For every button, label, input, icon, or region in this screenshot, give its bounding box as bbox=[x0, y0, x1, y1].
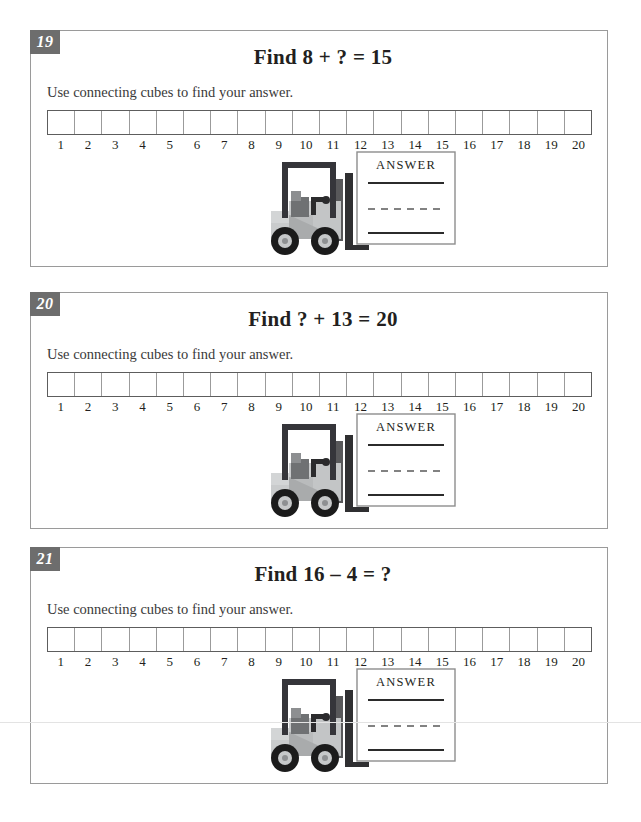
forklift-answer-illustration: ANSWER bbox=[253, 413, 473, 525]
answer-box-label: ANSWER bbox=[376, 420, 436, 434]
strip-cell[interactable] bbox=[483, 111, 510, 134]
answer-box-label: ANSWER bbox=[376, 158, 436, 172]
strip-cell[interactable] bbox=[538, 628, 565, 651]
strip-cell[interactable] bbox=[347, 111, 374, 134]
strip-cell[interactable] bbox=[184, 373, 211, 396]
strip-label: 5 bbox=[156, 654, 183, 670]
strip-label: 19 bbox=[538, 654, 565, 670]
strip-cell[interactable] bbox=[565, 111, 591, 134]
strip-cell[interactable] bbox=[102, 373, 129, 396]
strip-cell[interactable] bbox=[429, 373, 456, 396]
strip-cell[interactable] bbox=[429, 111, 456, 134]
strip-cell[interactable] bbox=[75, 373, 102, 396]
problem-title: Find 16 – 4 = ? bbox=[31, 562, 607, 587]
strip-cell[interactable] bbox=[75, 628, 102, 651]
strip-cell[interactable] bbox=[347, 373, 374, 396]
problem-number-badge: 21 bbox=[30, 547, 60, 571]
strip-cell[interactable] bbox=[483, 628, 510, 651]
strip-cell[interactable] bbox=[374, 373, 401, 396]
number-strip: 1234567891011121314151617181920 bbox=[47, 372, 592, 415]
forklift-answer-illustration: ANSWER bbox=[253, 668, 473, 780]
problem-number-badge: 20 bbox=[30, 292, 60, 316]
strip-cell[interactable] bbox=[211, 111, 238, 134]
number-strip-cells[interactable] bbox=[47, 372, 592, 397]
strip-cell[interactable] bbox=[320, 628, 347, 651]
number-strip-cells[interactable] bbox=[47, 110, 592, 135]
strip-cell[interactable] bbox=[565, 628, 591, 651]
strip-cell[interactable] bbox=[238, 628, 265, 651]
strip-cell[interactable] bbox=[456, 628, 483, 651]
strip-label: 2 bbox=[74, 654, 101, 670]
strip-label: 18 bbox=[510, 654, 537, 670]
strip-cell[interactable] bbox=[238, 373, 265, 396]
strip-label: 5 bbox=[156, 399, 183, 415]
strip-label: 5 bbox=[156, 137, 183, 153]
strip-label: 17 bbox=[483, 654, 510, 670]
strip-cell[interactable] bbox=[157, 111, 184, 134]
strip-cell[interactable] bbox=[293, 111, 320, 134]
strip-cell[interactable] bbox=[130, 111, 157, 134]
worksheet-page: 19 Find 8 + ? = 15 Use connecting cubes … bbox=[0, 0, 641, 822]
strip-label: 2 bbox=[74, 137, 101, 153]
strip-label: 1 bbox=[47, 137, 74, 153]
strip-label: 17 bbox=[483, 137, 510, 153]
strip-label: 18 bbox=[510, 399, 537, 415]
strip-label: 19 bbox=[538, 399, 565, 415]
strip-cell[interactable] bbox=[48, 628, 75, 651]
strip-cell[interactable] bbox=[184, 111, 211, 134]
strip-cell[interactable] bbox=[347, 628, 374, 651]
strip-cell[interactable] bbox=[48, 373, 75, 396]
strip-cell[interactable] bbox=[157, 373, 184, 396]
strip-cell[interactable] bbox=[374, 111, 401, 134]
problem-instruction: Use connecting cubes to find your answer… bbox=[47, 601, 607, 618]
strip-cell[interactable] bbox=[402, 373, 429, 396]
strip-cell[interactable] bbox=[374, 628, 401, 651]
strip-cell[interactable] bbox=[402, 111, 429, 134]
strip-cell[interactable] bbox=[510, 628, 537, 651]
strip-cell[interactable] bbox=[293, 628, 320, 651]
problem-title: Find ? + 13 = 20 bbox=[31, 307, 607, 332]
strip-label: 7 bbox=[211, 399, 238, 415]
strip-cell[interactable] bbox=[565, 373, 591, 396]
problem-instruction: Use connecting cubes to find your answer… bbox=[47, 346, 607, 363]
strip-cell[interactable] bbox=[211, 373, 238, 396]
strip-cell[interactable] bbox=[429, 628, 456, 651]
strip-cell[interactable] bbox=[293, 373, 320, 396]
strip-cell[interactable] bbox=[538, 373, 565, 396]
number-strip: 1234567891011121314151617181920 bbox=[47, 627, 592, 670]
strip-cell[interactable] bbox=[184, 628, 211, 651]
strip-label: 20 bbox=[565, 654, 592, 670]
problem-panel-19: 19 Find 8 + ? = 15 Use connecting cubes … bbox=[30, 30, 608, 267]
strip-label: 2 bbox=[74, 399, 101, 415]
strip-cell[interactable] bbox=[320, 373, 347, 396]
strip-cell[interactable] bbox=[266, 373, 293, 396]
strip-cell[interactable] bbox=[510, 111, 537, 134]
strip-cell[interactable] bbox=[510, 373, 537, 396]
strip-label: 18 bbox=[510, 137, 537, 153]
strip-cell[interactable] bbox=[102, 111, 129, 134]
strip-cell[interactable] bbox=[266, 628, 293, 651]
strip-cell[interactable] bbox=[483, 373, 510, 396]
strip-label: 3 bbox=[102, 399, 129, 415]
strip-cell[interactable] bbox=[320, 111, 347, 134]
strip-cell[interactable] bbox=[102, 628, 129, 651]
number-strip-cells[interactable] bbox=[47, 627, 592, 652]
strip-cell[interactable] bbox=[456, 373, 483, 396]
problem-number-badge: 19 bbox=[30, 30, 60, 54]
strip-cell[interactable] bbox=[266, 111, 293, 134]
strip-label: 6 bbox=[183, 399, 210, 415]
strip-cell[interactable] bbox=[456, 111, 483, 134]
strip-label: 19 bbox=[538, 137, 565, 153]
strip-cell[interactable] bbox=[238, 111, 265, 134]
strip-label: 20 bbox=[565, 137, 592, 153]
strip-cell[interactable] bbox=[48, 111, 75, 134]
strip-cell[interactable] bbox=[75, 111, 102, 134]
strip-cell[interactable] bbox=[538, 111, 565, 134]
strip-cell[interactable] bbox=[402, 628, 429, 651]
strip-cell[interactable] bbox=[130, 628, 157, 651]
strip-cell[interactable] bbox=[130, 373, 157, 396]
strip-label: 4 bbox=[129, 137, 156, 153]
strip-label: 20 bbox=[565, 399, 592, 415]
strip-cell[interactable] bbox=[211, 628, 238, 651]
strip-cell[interactable] bbox=[157, 628, 184, 651]
